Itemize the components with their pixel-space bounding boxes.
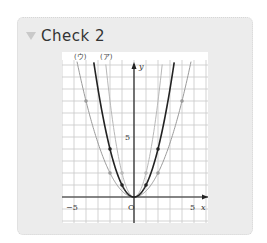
curve-label-a: (ア) — [100, 53, 113, 61]
triangle-down-icon — [26, 32, 36, 40]
y-tick-5: 5 — [125, 133, 130, 142]
panel-title: Check 2 — [41, 27, 105, 45]
curve-label-u: (ウ) — [74, 53, 87, 61]
panel-header: Check 2 — [26, 27, 105, 45]
y-axis-label: y — [138, 62, 144, 71]
x-tick-5: 5 — [190, 203, 195, 212]
x-axis-label: x — [201, 203, 206, 212]
x-tick-neg5: −5 — [66, 203, 78, 212]
origin-label: O — [128, 203, 135, 212]
parabola-graph: y x O −5 5 5 (ウ) (ア) — [62, 52, 208, 223]
